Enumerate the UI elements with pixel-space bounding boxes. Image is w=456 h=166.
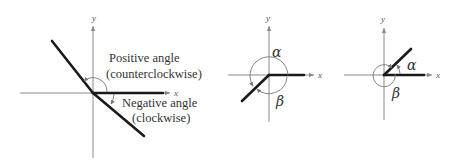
beta-label: β — [391, 85, 400, 101]
y-axis-label: y — [380, 14, 385, 24]
negative-angle-label: Negative angle — [122, 96, 198, 110]
negative-angle-arc-icon — [111, 94, 114, 104]
positive-angle-label: Positive angle — [109, 51, 180, 65]
x-axis-label: x — [317, 70, 322, 80]
angle-diagrams: x y Positive angle (counterclockwise) Ne… — [0, 0, 456, 166]
terminal-side — [242, 75, 269, 101]
x-axis-label: x — [435, 70, 440, 80]
diagram-coterminal-1: x y α β — [228, 13, 322, 122]
beta-arc-icon — [257, 77, 287, 94]
alpha-label: α — [407, 57, 417, 73]
alpha-label: α — [272, 44, 282, 60]
beta-label: β — [275, 93, 284, 109]
alpha-arc-icon — [397, 65, 400, 74]
y-axis-label: y — [91, 13, 96, 23]
y-axis-label: y — [265, 13, 270, 23]
positive-angle-sublabel: (counterclockwise) — [106, 67, 202, 81]
diagram-coterminal-2: x y α β — [344, 14, 440, 120]
diagram-positive-negative: x y Positive angle (counterclockwise) Ne… — [20, 13, 202, 158]
terminal-side-positive — [52, 41, 93, 93]
negative-angle-sublabel: (clockwise) — [132, 111, 190, 125]
